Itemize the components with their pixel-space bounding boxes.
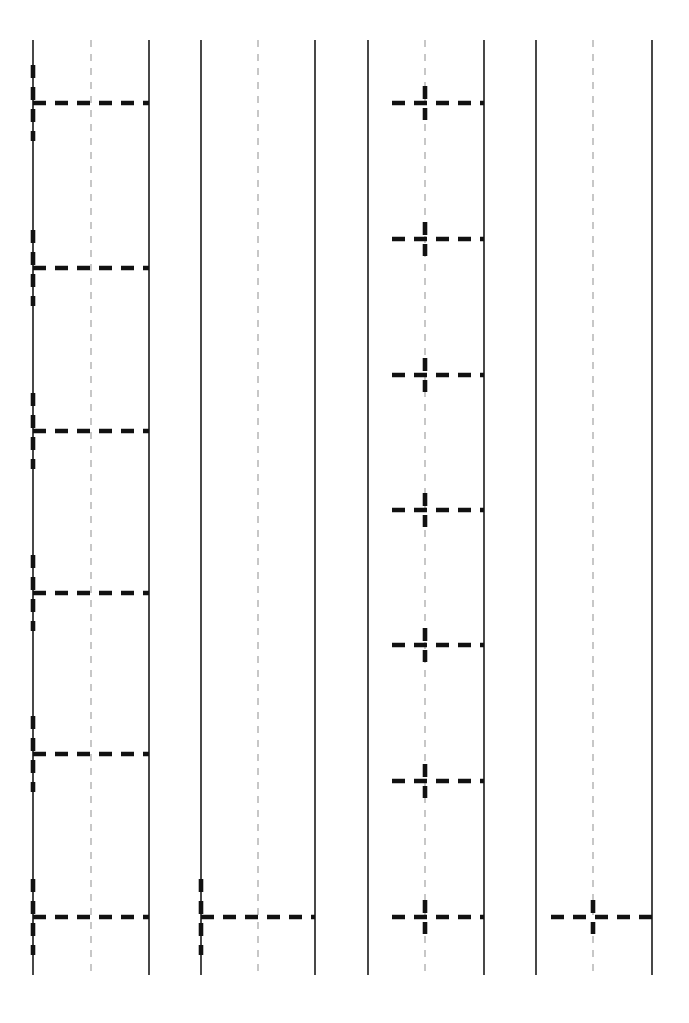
diagram-canvas <box>0 0 689 1023</box>
line-diagram-svg <box>0 0 689 1023</box>
background-rect <box>0 0 689 1023</box>
